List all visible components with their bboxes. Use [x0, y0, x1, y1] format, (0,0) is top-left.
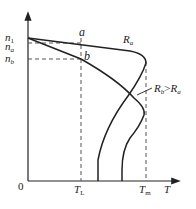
rb-gt-ra-label: Rb>Ra: [153, 82, 181, 96]
tm-label: Tm: [139, 183, 151, 197]
rb-leader: [137, 88, 152, 95]
point-a-label: a: [79, 25, 85, 39]
tl-label: TL: [74, 183, 84, 197]
t-axis-label: T: [164, 183, 171, 195]
nb-label: nb: [5, 52, 15, 66]
speed-torque-diagram: n1 na nb a b Ra Rb>Ra 0 TL Tm T: [0, 0, 196, 209]
point-b-label: b: [84, 49, 90, 63]
ra-label: Ra: [122, 33, 134, 47]
origin-label: 0: [18, 180, 24, 192]
